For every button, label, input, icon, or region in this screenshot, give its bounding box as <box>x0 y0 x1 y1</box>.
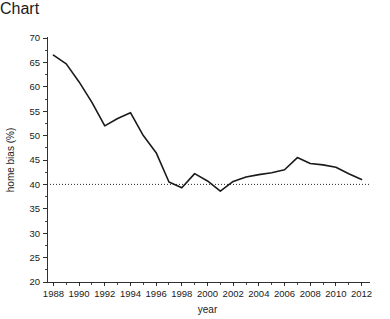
y-tick-label: 20 <box>29 276 40 287</box>
x-axis-tick-labels: 1988199019921994199619982000200220042006… <box>43 288 372 299</box>
y-tick-label: 60 <box>29 81 40 92</box>
x-tick-label: 2008 <box>300 288 321 299</box>
data-series-home-bias <box>53 55 361 191</box>
x-tick-label: 1994 <box>120 288 141 299</box>
y-tick-label: 30 <box>29 228 40 239</box>
y-axis-tick-labels: 2025303540455055606570 <box>29 32 40 287</box>
y-tick-label: 50 <box>29 130 40 141</box>
y-tick-label: 40 <box>29 179 40 190</box>
y-tick-label: 45 <box>29 154 40 165</box>
x-tick-label: 2010 <box>325 288 346 299</box>
y-tick-label: 70 <box>29 32 40 43</box>
x-axis-title: year <box>198 304 218 315</box>
y-tick-label: 35 <box>29 203 40 214</box>
y-tick-label: 65 <box>29 57 40 68</box>
x-tick-label: 2006 <box>274 288 295 299</box>
y-tick-label: 55 <box>29 106 40 117</box>
series-path-home-bias <box>53 55 361 191</box>
y-axis-title: home bias (%) <box>5 128 16 192</box>
x-tick-label: 1988 <box>43 288 64 299</box>
x-tick-label: 2012 <box>351 288 372 299</box>
y-tick-label: 25 <box>29 252 40 263</box>
chart-container: 2025303540455055606570 19881990199219941… <box>0 18 390 319</box>
x-tick-label: 1990 <box>69 288 90 299</box>
x-tick-label: 2002 <box>223 288 244 299</box>
x-tick-label: 1996 <box>146 288 167 299</box>
x-tick-label: 2004 <box>248 288 269 299</box>
axes <box>43 37 370 286</box>
x-tick-label: 1992 <box>94 288 115 299</box>
x-tick-label: 2000 <box>197 288 218 299</box>
x-tick-label: 1998 <box>171 288 192 299</box>
home-bias-line-chart: 2025303540455055606570 19881990199219941… <box>0 18 390 319</box>
